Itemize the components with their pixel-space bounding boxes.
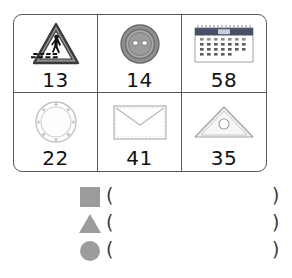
- paren-close: ): [272, 186, 279, 205]
- paren-close: ): [272, 213, 279, 232]
- item-label: 22: [42, 148, 68, 168]
- paren-open: (: [106, 240, 113, 259]
- answer-row-square: ( ): [0, 183, 292, 210]
- paren-open: (: [106, 186, 113, 205]
- envelope-icon: [98, 97, 181, 147]
- paren-open: (: [106, 213, 113, 232]
- table-cell-4[interactable]: 22: [14, 93, 98, 171]
- item-label: 58: [211, 70, 237, 90]
- paren-close: ): [272, 240, 279, 259]
- circle-shape-icon: [79, 240, 101, 262]
- answer-row-triangle: ( ): [0, 210, 292, 237]
- table-cell-3[interactable]: 58: [182, 15, 266, 93]
- ring-icon: [14, 97, 97, 147]
- triangle-ruler-icon: [182, 97, 266, 147]
- square-shape-icon: [79, 186, 101, 208]
- calendar-icon: [182, 19, 266, 69]
- item-table: 13 14: [13, 14, 267, 172]
- answer-row-circle: ( ): [0, 237, 292, 264]
- item-label: 35: [211, 148, 237, 168]
- pedestrian-crossing-sign-icon: [14, 19, 97, 69]
- table-cell-6[interactable]: 35: [182, 93, 266, 171]
- table-cell-2[interactable]: 14: [98, 15, 182, 93]
- item-label: 14: [126, 70, 152, 90]
- answer-rows: ( ) ( ) ( ): [0, 183, 292, 264]
- table-cell-1[interactable]: 13: [14, 15, 98, 93]
- table-cell-5[interactable]: 41: [98, 93, 182, 171]
- item-label: 13: [42, 70, 68, 90]
- triangle-shape-icon: [79, 213, 101, 235]
- item-label: 41: [126, 148, 152, 168]
- button-icon: [98, 19, 181, 69]
